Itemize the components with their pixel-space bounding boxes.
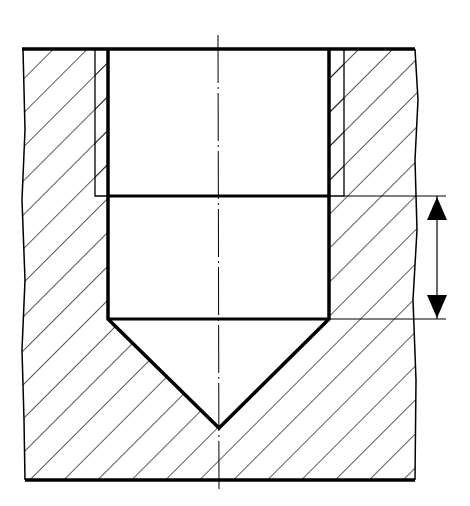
dimension-arrow-up-icon — [427, 197, 447, 220]
centerline — [218, 35, 219, 492]
thread-hatching — [95, 49, 344, 196]
threaded-blind-hole-drawing — [0, 0, 470, 506]
part-break-line-left — [22, 49, 25, 480]
dimension-arrow-down-icon — [427, 295, 447, 318]
section-hatching — [0, 49, 470, 480]
